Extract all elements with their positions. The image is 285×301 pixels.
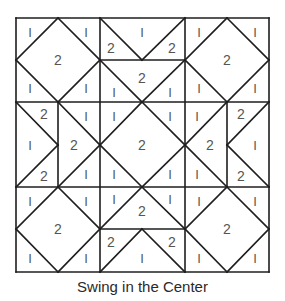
seam-line bbox=[227, 145, 269, 187]
seam-line bbox=[16, 102, 58, 145]
piece-label: I bbox=[28, 251, 32, 266]
piece-label: I bbox=[168, 192, 172, 207]
piece-label: I bbox=[84, 167, 88, 182]
piece-label: I bbox=[112, 192, 116, 207]
piece-label: I bbox=[253, 194, 257, 209]
seam-line bbox=[142, 102, 185, 145]
seam-line bbox=[16, 60, 58, 102]
seam-line bbox=[185, 187, 227, 229]
piece-label: 2 bbox=[138, 137, 146, 153]
piece-label: 2 bbox=[107, 234, 115, 250]
seam-line bbox=[142, 145, 185, 187]
seam-line bbox=[58, 229, 100, 272]
seam-line bbox=[100, 187, 142, 229]
seam-line bbox=[227, 60, 269, 102]
piece-label: I bbox=[140, 25, 144, 40]
piece-label: I bbox=[112, 109, 116, 124]
piece-label: I bbox=[168, 85, 172, 100]
piece-label: I bbox=[140, 251, 144, 266]
piece-label: 2 bbox=[107, 40, 115, 56]
piece-label: I bbox=[28, 25, 32, 40]
piece-label: 2 bbox=[168, 234, 176, 250]
piece-label: I bbox=[28, 138, 32, 153]
piece-label: I bbox=[28, 194, 32, 209]
seam-line bbox=[16, 229, 58, 272]
block-bottom-right: II2II bbox=[197, 194, 257, 266]
piece-label: 2 bbox=[40, 106, 48, 122]
block-top-left: II2II bbox=[28, 25, 88, 96]
seam-line bbox=[185, 18, 227, 60]
piece-label: 2 bbox=[138, 70, 146, 86]
piece-label: 2 bbox=[237, 106, 245, 122]
piece-label: 2 bbox=[40, 168, 48, 184]
piece-label: 2 bbox=[70, 137, 78, 153]
seam-line bbox=[58, 145, 100, 187]
seam-line bbox=[142, 229, 185, 272]
piece-label: I bbox=[84, 81, 88, 96]
piece-label: 2 bbox=[223, 221, 231, 237]
seam-line bbox=[227, 229, 269, 272]
piece-label: 2 bbox=[54, 221, 62, 237]
piece-label: I bbox=[197, 25, 201, 40]
seam-line bbox=[142, 60, 185, 102]
piece-label: 2 bbox=[138, 203, 146, 219]
seam-line bbox=[58, 60, 100, 102]
block-bottom-left: II2II bbox=[28, 194, 88, 266]
piece-label: 2 bbox=[237, 168, 245, 184]
piece-label: I bbox=[253, 81, 257, 96]
seam-line bbox=[58, 18, 100, 60]
seam-line bbox=[185, 60, 227, 102]
seam-line bbox=[100, 102, 142, 145]
piece-label: 2 bbox=[54, 52, 62, 68]
piece-label: I bbox=[195, 109, 199, 124]
seam-line bbox=[142, 18, 185, 60]
piece-label: I bbox=[195, 167, 199, 182]
piece-label: 2 bbox=[206, 137, 214, 153]
piece-label: I bbox=[197, 81, 201, 96]
piece-label: I bbox=[168, 167, 172, 182]
seam-line bbox=[16, 187, 58, 229]
piece-label: I bbox=[84, 194, 88, 209]
seam-line bbox=[227, 18, 269, 60]
seam-line bbox=[58, 102, 100, 145]
piece-label: I bbox=[84, 251, 88, 266]
piece-label: I bbox=[253, 138, 257, 153]
piece-label: 2 bbox=[223, 52, 231, 68]
block-top-right: II2II bbox=[197, 25, 257, 96]
piece-label: I bbox=[84, 109, 88, 124]
seam-line bbox=[58, 187, 100, 229]
seam-line bbox=[16, 18, 58, 60]
piece-label: I bbox=[197, 251, 201, 266]
piece-label: I bbox=[112, 167, 116, 182]
block-center: II2II bbox=[112, 109, 172, 182]
seam-line bbox=[142, 187, 185, 229]
quilt-diagram: II2II2I22IIII2II2I2I2III2III2I2I2II2III2… bbox=[0, 0, 285, 275]
piece-label: I bbox=[197, 194, 201, 209]
seam-line bbox=[100, 60, 142, 102]
seam-line bbox=[100, 145, 142, 187]
piece-label: I bbox=[253, 251, 257, 266]
diagram-caption: Swing in the Center bbox=[0, 278, 285, 295]
seam-line bbox=[227, 187, 269, 229]
piece-label: I bbox=[168, 109, 172, 124]
piece-label: I bbox=[84, 25, 88, 40]
seam-line bbox=[185, 229, 227, 272]
piece-label: I bbox=[112, 85, 116, 100]
piece-label: 2 bbox=[168, 40, 176, 56]
seam-line bbox=[227, 102, 269, 145]
seam-line bbox=[16, 145, 58, 187]
piece-label: I bbox=[28, 81, 32, 96]
piece-label: I bbox=[253, 25, 257, 40]
